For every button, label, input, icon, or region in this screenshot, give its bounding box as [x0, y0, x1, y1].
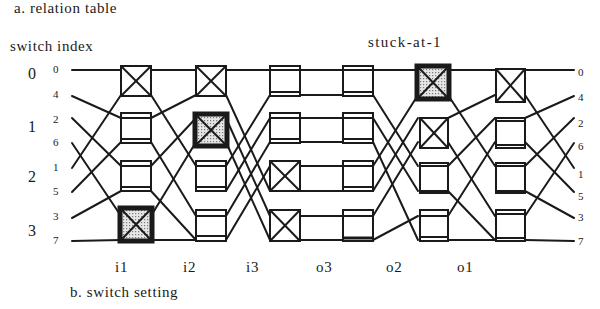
switch-i2-3-straight [196, 210, 226, 241]
switch-i3-1-straight [270, 113, 300, 143]
switch-i1-1-straight [121, 113, 151, 143]
switch-o2-3-straight [420, 210, 448, 241]
switch-o3-0-straight [343, 66, 373, 96]
switch-o3-3-straight [343, 210, 373, 241]
switch-i1-2-straight [121, 161, 151, 191]
switch-i3-3-cross [270, 210, 300, 241]
switch-o2-0-faulty [417, 66, 449, 99]
switch-o1-2-straight [496, 163, 525, 193]
network-diagram [0, 0, 600, 309]
switch-i2-2-straight [196, 161, 226, 191]
switch-i3-0-straight [270, 66, 300, 96]
switch-boxes [120, 66, 525, 241]
switch-i2-1-faulty [195, 114, 227, 146]
switch-i3-2-cross [270, 161, 300, 191]
switch-o2-2-straight [420, 163, 448, 193]
switch-o1-1-straight [496, 118, 525, 148]
switch-i1-3-faulty [120, 208, 152, 241]
switch-o3-1-straight [343, 113, 373, 143]
switch-o2-1-cross [420, 118, 448, 148]
switch-o3-2-straight [343, 161, 373, 191]
switch-o1-3-straight [496, 210, 525, 241]
switch-i2-0-cross [196, 66, 226, 96]
switch-i1-0-cross [121, 66, 151, 96]
switch-o1-0-cross [496, 69, 525, 102]
